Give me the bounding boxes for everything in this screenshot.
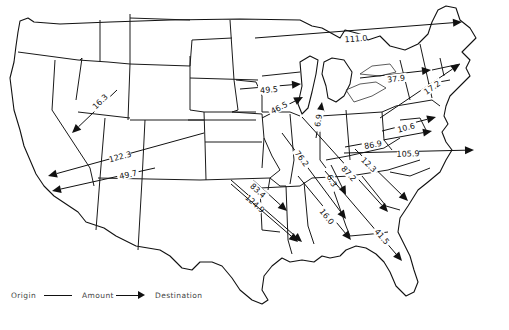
legend-origin-label: Origin — [11, 291, 36, 300]
flow-amount-label: 49.5 — [260, 85, 278, 95]
legend-line — [44, 295, 72, 296]
arrowhead-icon — [450, 64, 460, 72]
arrowhead-icon — [465, 146, 474, 154]
flow-arrow: 6.9 — [312, 102, 325, 138]
map-legend: Origin Amount Destination — [11, 288, 202, 302]
arrowhead-icon — [337, 209, 346, 219]
flow-line — [355, 149, 402, 195]
flow-arrow: 16.3 — [72, 90, 117, 133]
flow-arrow: 49.7 — [52, 168, 155, 193]
flow-arrow: 49.5 — [240, 81, 301, 95]
arrowhead-icon — [292, 81, 301, 89]
flow-amount-label: 49.7 — [118, 169, 137, 182]
arrowhead-icon — [48, 170, 58, 178]
flow-arrow: 86.9 — [345, 129, 432, 151]
legend-arrow-line — [116, 295, 138, 296]
legend-arrowhead-icon — [138, 291, 145, 299]
arrowhead-icon — [422, 129, 432, 137]
flow-amount-label: 10.6 — [396, 121, 416, 134]
flow-arrow: 124.9 — [231, 180, 302, 242]
flow-arrow: 111.0 — [255, 19, 462, 45]
us-flow-map: 111.016.3122.349.749.546.56.937.917.210.… — [0, 0, 509, 330]
arrowhead-icon — [426, 115, 436, 123]
flow-arrow: 17.2 — [380, 64, 460, 118]
state-borders — [18, 14, 460, 254]
flow-amount-label: 46.5 — [269, 100, 289, 116]
legend-amount-label: Amount — [82, 291, 114, 300]
legend-destination-label: Destination — [155, 291, 202, 300]
arrowhead-icon — [52, 185, 62, 193]
flow-amount-label: 6.9 — [313, 114, 324, 128]
flow-arrow: 37.9 — [360, 67, 431, 84]
flow-amount-label: 37.9 — [387, 74, 406, 85]
flow-amount-label: 122.3 — [108, 150, 132, 165]
arrowhead-icon — [393, 252, 402, 261]
flow-arrows: 111.016.3122.349.749.546.56.937.917.210.… — [48, 19, 474, 261]
flow-amount-label: 111.0 — [344, 34, 368, 45]
flow-amount-label: 105.9 — [396, 149, 419, 159]
